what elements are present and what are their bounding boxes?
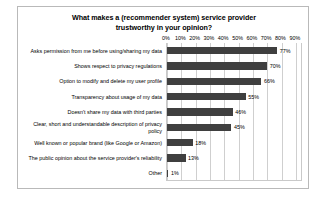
bar <box>167 154 186 162</box>
category-label: The public opinion about the service pro… <box>20 155 162 161</box>
bar-row: 46% <box>167 108 303 116</box>
x-tick-label: 60% <box>246 34 257 43</box>
category-label: Clear, short and understandable descript… <box>20 121 162 133</box>
plot-area: 77%70%66%55%46%45%18%13%1% <box>166 43 302 181</box>
chart-title-line-2: trustworthy in your opinion? <box>24 23 304 33</box>
bar-row: 45% <box>167 124 303 132</box>
bar-row: 77% <box>167 47 303 55</box>
bar-row: 13% <box>167 154 303 162</box>
x-tick-label: 40% <box>218 34 229 43</box>
plot-wrapper: 0%10%20%30%40%50%60%70%80%90% 77%70%66%5… <box>18 34 308 188</box>
bar <box>167 139 193 147</box>
category-label: Option to modify and delete my user prof… <box>20 78 162 84</box>
x-tick-label: 50% <box>232 34 243 43</box>
bar <box>167 78 261 86</box>
bar-row: 1% <box>167 170 303 178</box>
x-tick-label: 70% <box>261 34 272 43</box>
bar <box>167 124 231 132</box>
bar-row: 66% <box>167 78 303 86</box>
bar-row: 55% <box>167 93 303 101</box>
x-tick-label: 80% <box>275 34 286 43</box>
bar-value-label: 1% <box>168 170 178 176</box>
category-label: Shows respect to privacy regulations <box>20 63 162 69</box>
y-axis-category-labels: Asks permission from me before using/sha… <box>18 43 164 181</box>
bar <box>167 108 233 116</box>
x-axis-tick-labels: 0%10%20%30%40%50%60%70%80%90% <box>166 34 302 43</box>
bar-row: 70% <box>167 62 303 70</box>
category-label: Transparency about usage of my data <box>20 94 162 100</box>
chart-container: What makes a (recommender system) servic… <box>17 6 309 189</box>
bar-value-label: 70% <box>267 63 280 69</box>
chart-title: What makes a (recommender system) servic… <box>24 13 304 32</box>
category-label: Doesn't share my data with third parties <box>20 109 162 115</box>
category-label: Well known or popular brand (like Google… <box>20 140 162 146</box>
bar-value-label: 46% <box>233 109 246 115</box>
bar <box>167 93 246 101</box>
bar <box>167 47 277 55</box>
x-tick-label: 90% <box>289 34 300 43</box>
x-tick-label: 0% <box>162 34 170 43</box>
bar-value-label: 18% <box>193 140 206 146</box>
category-label: Other <box>20 170 162 176</box>
x-tick-label: 20% <box>189 34 200 43</box>
bar-value-label: 45% <box>231 124 244 130</box>
bar-value-label: 13% <box>186 155 199 161</box>
category-label: Asks permission from me before using/sha… <box>20 48 162 54</box>
x-tick-label: 30% <box>204 34 215 43</box>
x-tick-label: 10% <box>175 34 186 43</box>
bar-row: 18% <box>167 139 303 147</box>
bar-value-label: 66% <box>261 78 274 84</box>
bar <box>167 62 267 70</box>
bar-value-label: 55% <box>246 94 259 100</box>
bar-value-label: 77% <box>277 48 290 54</box>
chart-title-line-1: What makes a (recommender system) servic… <box>24 13 304 23</box>
